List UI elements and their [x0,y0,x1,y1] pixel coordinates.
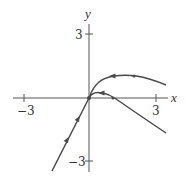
origin-point [87,96,91,100]
y-tick-label-3: 3 [75,28,83,42]
y-tick-label-neg3: −3 [68,155,86,169]
marker-dot [132,74,135,77]
y-axis-label: y [83,6,91,21]
x-tick-label-3: 3 [152,104,160,118]
marker-dot [112,97,115,100]
arrow-left-icon [109,74,116,79]
upper-trajectory [89,75,166,98]
chart: −3 3 3 −3 x y [0,0,186,183]
x-axis-label: x [170,90,177,105]
arrow-left-icon [98,91,105,96]
x-tick-label-neg3: −3 [17,104,35,118]
